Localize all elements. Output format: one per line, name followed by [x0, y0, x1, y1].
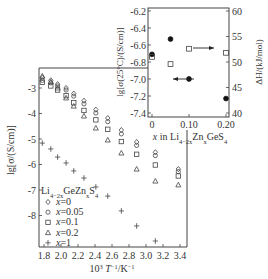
x-tick-label: 3.4	[174, 250, 187, 261]
inset-x-tick-label: 0.10	[180, 119, 198, 130]
inset-y-tick-label-left: -6.6	[130, 40, 146, 51]
legend-marker	[46, 220, 50, 224]
x-axis-label: 103 T−1/K−1	[89, 263, 134, 275]
data-point	[105, 137, 110, 142]
data-point	[176, 182, 181, 187]
data-point	[106, 127, 110, 131]
y-tick-label: -7	[28, 185, 36, 196]
data-point	[81, 175, 86, 181]
x-tick-label: 3.0	[140, 250, 153, 261]
inset-y-tick-label-right: 55	[232, 31, 242, 42]
y-tick-label: -5	[28, 134, 36, 145]
x-tick-label: 2.8	[123, 250, 136, 261]
data-point	[134, 223, 139, 229]
data-point	[176, 174, 180, 178]
data-point	[135, 143, 139, 147]
inset-y-tick-label-left: -7.0	[130, 74, 146, 85]
inset-y-tick-label-left: -7.2	[130, 91, 146, 102]
legend-marker	[46, 230, 51, 235]
inset-y-tick-label-left: -6.4	[130, 23, 146, 34]
y-tick-label: -3	[28, 83, 36, 94]
data-point	[93, 125, 98, 130]
inset-data-point	[224, 96, 229, 101]
inset-y-tick-label-right: 40	[232, 108, 242, 119]
legend-marker	[46, 210, 50, 214]
legend: Li4−2xGeZnxS4x=0x=0.05x=0.1x=0.2x=1	[41, 185, 99, 248]
inset-y-tick-label-left: -6.2	[130, 6, 146, 17]
inset-y-axis-label-right: ΔH/(kJ/mol)	[254, 39, 264, 84]
data-point	[48, 146, 53, 152]
inset-x-axis-label: x in Li4−2xZnxGeS4	[152, 131, 228, 145]
inset-plot: 00.100.20-6.2-6.4-6.6-6.8-7.0-7.2-7.4605…	[115, 6, 264, 145]
inset-y-axis-label-left: lg[σ(25°C)/(S/cm)]	[115, 27, 125, 96]
x-tick-label: 2.4	[89, 250, 102, 261]
data-point	[71, 104, 76, 109]
legend-entry: x=1	[55, 237, 71, 248]
data-point	[81, 113, 86, 118]
data-point	[153, 163, 157, 167]
legend-marker	[45, 240, 50, 246]
chart-canvas: 1.82.02.22.42.62.83.03.23.4-3-4-5-6-7-81…	[0, 0, 268, 279]
data-point	[153, 153, 157, 157]
data-point	[119, 208, 124, 214]
data-point	[119, 150, 124, 155]
data-point	[55, 154, 60, 160]
inset-x-tick-label: 0	[150, 119, 155, 130]
y-tick-label: -4	[28, 108, 36, 119]
data-point	[94, 111, 98, 115]
inset-y-tick-label-right: 60	[232, 6, 242, 17]
data-point	[119, 139, 123, 143]
data-point	[134, 166, 139, 171]
data-point	[153, 238, 158, 244]
inset-x-tick-label: 0.20	[217, 119, 235, 130]
x-tick-label: 2.6	[106, 250, 119, 261]
y-tick-label: -6	[28, 159, 36, 170]
data-point	[134, 152, 138, 156]
x-tick-label: 3.2	[157, 250, 170, 261]
x-tick-label: 2.0	[55, 250, 68, 261]
data-point	[71, 168, 76, 174]
data-point	[64, 160, 69, 166]
y-tick-label: -8	[28, 210, 36, 221]
inset-y-tick-label-left: -6.8	[130, 57, 146, 68]
data-point	[94, 118, 98, 122]
inset-frame	[148, 8, 229, 117]
inset-y-tick-label-left: -7.4	[130, 108, 146, 119]
legend-marker	[46, 199, 50, 204]
x-tick-label: 1.8	[38, 250, 51, 261]
inset-y-tick-label-right: 50	[232, 57, 242, 68]
x-tick-label: 2.2	[72, 250, 85, 261]
inset-data-point	[168, 37, 173, 42]
data-point	[153, 178, 158, 183]
inset-y-tick-label-right: 45	[232, 82, 242, 93]
y-axis-label: lg[σ/(S/cm)]	[5, 125, 17, 175]
data-point	[82, 108, 86, 112]
data-point	[105, 193, 110, 199]
data-point	[40, 140, 45, 146]
